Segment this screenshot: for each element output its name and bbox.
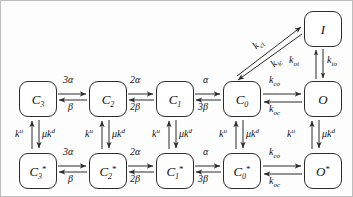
rate-label-c1s-c0s-backward: 3β	[198, 174, 208, 184]
rate-label-mukd-c3: μkd	[42, 129, 55, 139]
rate-label-c2s-c1s-forward: 2α	[130, 147, 140, 157]
state-box-C3[interactable]: C3	[19, 81, 57, 117]
state-box-C0[interactable]: C0	[223, 81, 261, 117]
state-label-C1-star: C1*	[166, 165, 183, 178]
state-label-C0: C0	[236, 93, 249, 106]
rate-label-co-middle-backward: koc	[269, 104, 280, 114]
rate-label-mukd-o: μkd	[322, 129, 335, 139]
rate-label-co-bottom-backward: koc	[269, 176, 280, 186]
state-box-I[interactable]: I	[304, 11, 342, 47]
rate-label-mukd-c2: μkd	[112, 129, 125, 139]
state-box-C2-star[interactable]: C2*	[89, 153, 127, 189]
state-label-C3-star: C3*	[29, 165, 46, 178]
state-box-C3-star[interactable]: C3*	[19, 153, 57, 189]
state-label-O: O	[318, 93, 327, 106]
rate-label-ku-c0: ku	[219, 129, 227, 139]
rate-label-c1-c0-forward: α	[203, 75, 208, 85]
state-box-C0-star[interactable]: C0*	[223, 153, 261, 189]
rate-label-c2s-c1s-backward: 2β	[130, 174, 140, 184]
rate-label-co-bottom-forward: kco	[269, 147, 280, 157]
rate-label-c1-c0-backward: 3β	[198, 102, 208, 112]
rate-label-co-middle-forward: kco	[269, 75, 280, 85]
state-box-O[interactable]: O	[304, 81, 342, 117]
rate-label-ku-c1: ku	[152, 129, 160, 139]
state-label-C3: C3	[32, 93, 45, 106]
rate-label-c2-c1-forward: 2α	[130, 75, 140, 85]
state-label-I: I	[321, 23, 325, 36]
rate-label-c3s-c2s-forward: 3α	[63, 147, 73, 157]
state-label-O-star: O*	[316, 165, 330, 178]
rate-label-c3-c2-backward: β	[68, 102, 73, 112]
state-diagram-figure: I C3 C2 C1 C0 O C3* C2*	[0, 0, 353, 197]
rate-label-mukd-c1: μkd	[179, 129, 192, 139]
state-box-O-star[interactable]: O*	[304, 153, 342, 189]
state-label-C2-star: C2*	[99, 165, 116, 178]
state-label-C1: C1	[169, 93, 182, 106]
rate-label-c3-c2-forward: 3α	[63, 75, 73, 85]
rate-label-io: kio	[327, 55, 337, 65]
state-label-C0-star: C0*	[233, 165, 250, 178]
state-label-C2: C2	[102, 93, 115, 106]
state-box-C2[interactable]: C2	[89, 81, 127, 117]
rate-label-mukd-c0: μkd	[246, 129, 259, 139]
rate-label-ku-c3: ku	[15, 129, 23, 139]
rate-label-ku-c2: ku	[85, 129, 93, 139]
state-box-C1-star[interactable]: C1*	[156, 153, 194, 189]
rate-label-c1s-c0s-forward: α	[203, 147, 208, 157]
rate-label-c3s-c2s-backward: β	[68, 174, 73, 184]
rate-label-oi: koi	[289, 55, 299, 65]
rate-label-c2-c1-backward: 2β	[130, 102, 140, 112]
state-box-C1[interactable]: C1	[156, 81, 194, 117]
rate-label-ku-o: ku	[287, 129, 295, 139]
